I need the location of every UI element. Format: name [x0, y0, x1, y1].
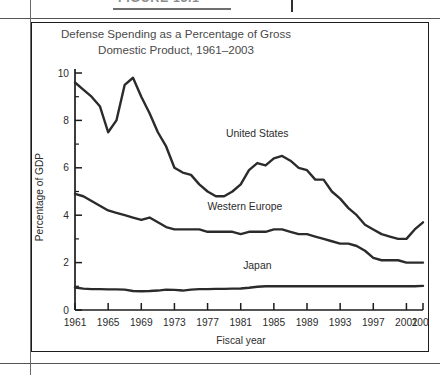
y-tick-label: 4 [63, 210, 69, 221]
y-tick-label: 6 [63, 162, 69, 173]
y-axis: 0246810 [58, 68, 82, 316]
series-annotations: United StatesWestern EuropeJapan [207, 128, 288, 271]
figure-caption-tick [291, 0, 293, 12]
series-label: Western Europe [207, 201, 282, 212]
y-tick-label: 10 [58, 68, 70, 79]
figure-caption-rule [113, 8, 231, 10]
x-tick-label: 1969 [130, 317, 153, 328]
y-tick-label: 2 [63, 257, 69, 268]
series-label: United States [226, 128, 288, 139]
x-axis: 1961196519691973197719811985198919931997… [64, 303, 429, 328]
x-tick-label: 2003 [412, 317, 429, 328]
series-label: Japan [243, 260, 272, 271]
x-tick-label: 1989 [296, 317, 319, 328]
x-tick-label: 1985 [263, 317, 286, 328]
y-axis-title: Percentage of GDP [34, 153, 45, 242]
x-axis-title: Fiscal year [216, 335, 266, 346]
series-line-japan [75, 286, 423, 291]
x-tick-label: 1981 [229, 317, 252, 328]
x-tick-label: 1997 [362, 317, 385, 328]
x-tick-label: 1973 [163, 317, 186, 328]
figure-caption-strip: FIGURE 13.1 [0, 0, 440, 20]
y-tick-label: 0 [63, 305, 69, 316]
x-tick-label: 1977 [196, 317, 219, 328]
page-bottom-rule [0, 363, 440, 364]
page-top-rule [0, 18, 440, 19]
line-chart: 0246810 19611965196919731977198119851989… [31, 22, 429, 352]
x-tick-label: 1961 [64, 317, 87, 328]
figure-caption-text: FIGURE 13.1 [118, 0, 200, 5]
y-tick-label: 8 [63, 115, 69, 126]
x-tick-label: 1965 [97, 317, 120, 328]
x-tick-label: 1993 [329, 317, 352, 328]
